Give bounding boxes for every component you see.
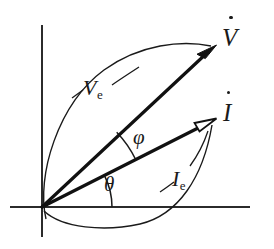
ie-base-text: I	[172, 166, 179, 191]
v-vector-arrowhead-solid	[197, 45, 217, 59]
ve-subscript-text: e	[97, 87, 103, 102]
i-vector-shaft	[42, 124, 206, 207]
ie-effective-label: Ie	[172, 168, 186, 192]
i-phasor-label: I	[223, 100, 231, 125]
v-phasor-label: V	[222, 25, 237, 50]
ve-effective-label: Ve	[83, 77, 103, 101]
ve-leader-line	[112, 67, 139, 85]
ie-leader-line	[190, 131, 208, 166]
theta-angle-label: θ	[104, 174, 114, 195]
v-phasor-label-text: V	[222, 24, 237, 51]
i-vector-arrowhead-hollow	[195, 119, 217, 132]
i-phasor-label-text: I	[223, 99, 231, 126]
v-phasor-dot-accent	[229, 16, 232, 19]
phasor-diagram-figure: V I Ve Ie φ θ	[0, 0, 274, 249]
ie-subscript-text: e	[180, 178, 186, 193]
ie-sweep-arc	[44, 125, 212, 228]
phi-angle-label: φ	[133, 127, 145, 148]
ve-base-text: V	[83, 75, 96, 100]
